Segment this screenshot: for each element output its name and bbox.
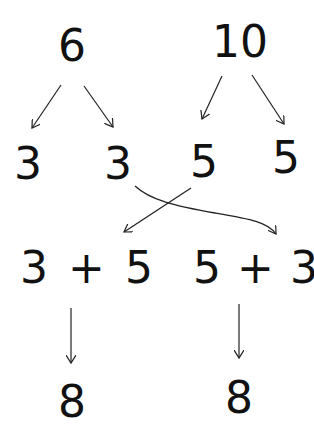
expr-left-a: 3 xyxy=(20,242,48,293)
part-1: 3 xyxy=(14,142,42,186)
result-left: 8 xyxy=(58,380,86,424)
part-2: 3 xyxy=(104,142,132,186)
expr-left-b: 5 xyxy=(125,242,153,293)
expression-left: 3 + 5 xyxy=(20,246,153,290)
expr-left-op: + xyxy=(68,242,105,293)
expr-right-a: 5 xyxy=(193,242,221,293)
top-number-right: 10 xyxy=(212,20,268,64)
top-number-left: 6 xyxy=(58,24,86,68)
expr-right-b: 3 xyxy=(290,242,314,293)
expression-right: 5 + 3 xyxy=(193,246,314,290)
part-3: 5 xyxy=(190,140,218,184)
part-4: 5 xyxy=(272,136,300,180)
expr-right-op: + xyxy=(237,242,274,293)
result-right: 8 xyxy=(225,376,253,420)
